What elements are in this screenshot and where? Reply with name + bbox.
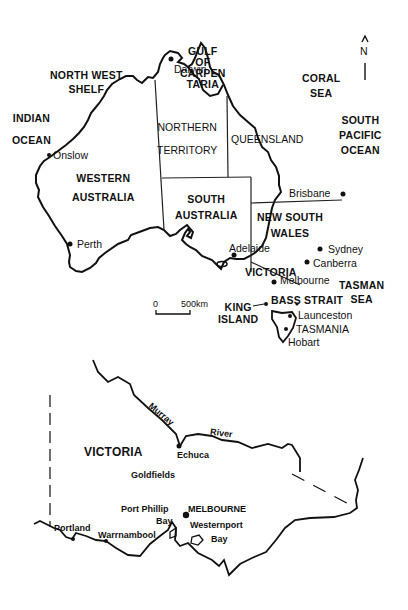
city-melbourne: Melbourne	[280, 275, 330, 286]
victoria-coastline	[34, 458, 363, 575]
state-borders	[155, 80, 342, 285]
label-tasmania: TASMANIA	[296, 324, 349, 335]
label-western-australia: WESTERN AUSTRALIA	[72, 169, 134, 207]
scale-start: 0	[153, 300, 158, 309]
label-tasman-sea: TASMAN SEA	[339, 278, 384, 306]
town-echuca: Echuca	[177, 451, 209, 460]
city-onslow: Onslow	[53, 150, 88, 161]
nsw-vic-border	[292, 474, 356, 508]
label-bass-strait: BASS STRAIT	[271, 295, 343, 306]
label-south-australia: SOUTH AUSTRALIA	[175, 191, 237, 223]
coral-line1: CORAL	[302, 71, 340, 86]
wa-line2: AUSTRALIA	[72, 188, 134, 207]
label-northern-territory: NORTHERN TERRITORY	[157, 116, 217, 162]
nws-line2: SHELF	[50, 82, 123, 96]
town-warrnambool: Warrnambool	[98, 531, 156, 540]
label-port-phillip-bay: Bay	[156, 517, 173, 526]
label-westernport: Westernport	[190, 521, 243, 530]
city-sydney: Sydney	[328, 244, 363, 255]
nws-line1: NORTH WEST	[50, 68, 123, 82]
city-perth: Perth	[77, 239, 102, 250]
nt-line2: TERRITORY	[157, 139, 217, 162]
city-launceston: Launceston	[298, 310, 352, 321]
town-portland: Portland	[54, 524, 91, 533]
label-king-island: KING ISLAND	[218, 301, 258, 325]
sp-line3: OCEAN	[339, 143, 382, 158]
city-canberra: Canberra	[313, 258, 357, 269]
city-darwin: Darwin	[174, 64, 207, 75]
tasman-line1: TASMAN	[339, 278, 384, 292]
label-queensland: QUEENSLAND	[231, 134, 303, 145]
nt-line1: NORTHERN	[157, 116, 217, 139]
label-goldfields: Goldfields	[131, 471, 175, 480]
scale-bar	[156, 310, 190, 314]
tasman-line2: SEA	[339, 292, 384, 306]
nsw-line1: NEW SOUTH	[257, 209, 323, 225]
label-port-phillip: Port Phillip	[121, 505, 169, 514]
label-new-south-wales: NEW SOUTH WALES	[257, 209, 323, 241]
north-arrow-label: N	[360, 46, 368, 57]
label-south-pacific-ocean: SOUTH PACIFIC OCEAN	[339, 113, 382, 158]
vic-title: VICTORIA	[84, 446, 143, 458]
label-indian-ocean: INDIAN OCEAN	[12, 107, 51, 151]
city-brisbane: Brisbane	[289, 188, 330, 199]
label-north-west-shelf: NORTH WEST SHELF	[50, 68, 123, 96]
north-arrow-icon	[362, 36, 368, 80]
sp-line1: SOUTH	[339, 113, 382, 128]
city-adelaide: Adelaide	[229, 243, 270, 254]
city-melbourne-capital: MELBOURNE	[188, 505, 246, 514]
gulf-line4: TARIA	[180, 79, 226, 90]
label-westernport-bay: Bay	[211, 535, 228, 544]
scale-end: 500km	[181, 300, 208, 309]
king-line2: ISLAND	[218, 313, 258, 325]
sa-line2: AUSTRALIA	[175, 207, 237, 223]
indian-line2: OCEAN	[12, 129, 51, 151]
label-coral-sea: CORAL SEA	[302, 71, 340, 101]
indian-line1: INDIAN	[12, 107, 51, 129]
wa-line1: WESTERN	[72, 169, 134, 188]
nsw-line2: WALES	[257, 225, 323, 241]
sp-line2: PACIFIC	[339, 128, 382, 143]
coral-line2: SEA	[302, 86, 340, 101]
city-hobart: Hobart	[288, 337, 320, 348]
king-line1: KING	[218, 301, 258, 313]
sa-line1: SOUTH	[175, 191, 237, 207]
